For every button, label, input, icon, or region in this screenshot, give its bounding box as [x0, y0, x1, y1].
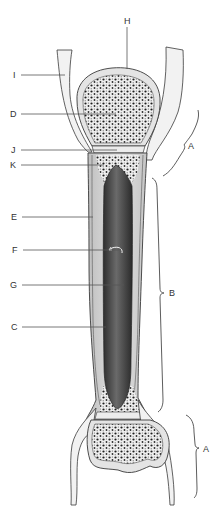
brace-A-bottom: [186, 415, 199, 498]
label-F: F: [12, 245, 18, 255]
label-C: C: [11, 322, 18, 332]
label-D: D: [10, 109, 17, 119]
brace-B: [152, 178, 164, 412]
proximal-epiphysis: [83, 75, 154, 143]
long-bone-diagram: [0, 0, 214, 518]
label-H: H: [124, 16, 131, 26]
label-J: J: [11, 145, 16, 155]
distal-epiphyseal-line: [95, 412, 142, 419]
label-E: E: [11, 212, 17, 222]
label-I: I: [13, 70, 16, 80]
epiphyseal-line: [92, 146, 145, 153]
medullary-cavity: [103, 165, 132, 408]
label-G: G: [10, 280, 17, 290]
label-K: K: [10, 160, 16, 170]
label-A-bottom: A: [203, 444, 209, 454]
label-B: B: [169, 288, 175, 298]
distal-epiphysis: [92, 424, 163, 464]
label-A-top: A: [188, 141, 194, 151]
